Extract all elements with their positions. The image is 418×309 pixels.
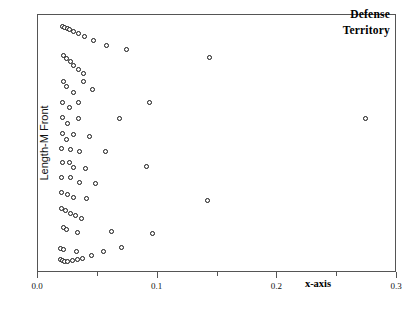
data-point (75, 257, 80, 262)
data-point (68, 175, 73, 180)
data-point (104, 43, 109, 48)
data-point (205, 198, 210, 203)
y-axis-title: Length-M Front (38, 105, 50, 180)
data-point (124, 47, 129, 52)
data-point (60, 131, 65, 136)
data-point (64, 84, 69, 89)
data-point (91, 38, 96, 43)
data-point (147, 100, 152, 105)
data-point (87, 134, 92, 139)
data-point (363, 116, 368, 121)
data-point (76, 100, 81, 105)
data-point (77, 180, 82, 185)
data-point (71, 165, 76, 170)
x-axis-tick-mark (217, 272, 218, 276)
data-point (71, 90, 76, 95)
data-point (76, 116, 81, 121)
x-axis-tick-label: 0.0 (31, 281, 42, 291)
chart-annotation-line-2: Territory (343, 22, 390, 38)
x-axis-tick-mark (37, 272, 38, 278)
x-axis-tick-mark (276, 272, 277, 278)
data-point (65, 121, 70, 126)
plot-frame (37, 14, 396, 272)
data-point (83, 166, 88, 171)
data-point (60, 100, 65, 105)
data-point (64, 137, 69, 142)
data-point (84, 196, 89, 201)
data-point (79, 216, 84, 221)
data-point (81, 79, 86, 84)
data-point (76, 67, 81, 72)
x-axis-tick-label: 0.2 (271, 281, 282, 291)
x-axis-tick-mark (157, 272, 158, 278)
x-axis-tick-label: 0.3 (390, 281, 401, 291)
data-point (207, 55, 212, 60)
data-point (101, 249, 106, 254)
x-axis-title: x-axis (305, 278, 331, 289)
data-point (60, 160, 65, 165)
data-point (89, 253, 94, 258)
data-point (150, 231, 155, 236)
x-axis-tick-label: 0.1 (151, 281, 162, 291)
data-point (74, 249, 79, 254)
plot-data-area (38, 15, 395, 271)
data-point (73, 213, 78, 218)
data-point (60, 115, 65, 120)
data-point (61, 247, 66, 252)
x-axis-tick-mark (97, 272, 98, 276)
data-point (117, 116, 122, 121)
chart-annotation-line-1: Defense (343, 6, 390, 22)
x-axis-tick-mark (396, 272, 397, 278)
data-point (59, 190, 64, 195)
data-point (81, 71, 86, 76)
data-point (77, 149, 82, 154)
data-point (71, 195, 76, 200)
data-point (59, 175, 64, 180)
data-point (67, 105, 72, 110)
data-point (68, 147, 73, 152)
data-point (76, 31, 81, 36)
data-point (59, 146, 64, 151)
data-point (75, 230, 80, 235)
data-point (144, 164, 149, 169)
data-point (80, 256, 85, 261)
x-axis-tick-mark (336, 272, 337, 276)
data-point (70, 258, 75, 263)
data-point (65, 192, 70, 197)
data-point (82, 34, 87, 39)
data-point (109, 229, 114, 234)
data-point (90, 87, 95, 92)
data-point (61, 79, 66, 84)
data-point (64, 227, 69, 232)
chart-annotation: Defense Territory (343, 6, 390, 38)
data-point (103, 149, 108, 154)
data-point (71, 132, 76, 137)
scatter-chart-figure: Defense Territory 0.00.10.20.3 x-axis Le… (0, 0, 418, 309)
data-point (119, 245, 124, 250)
data-point (93, 181, 98, 186)
